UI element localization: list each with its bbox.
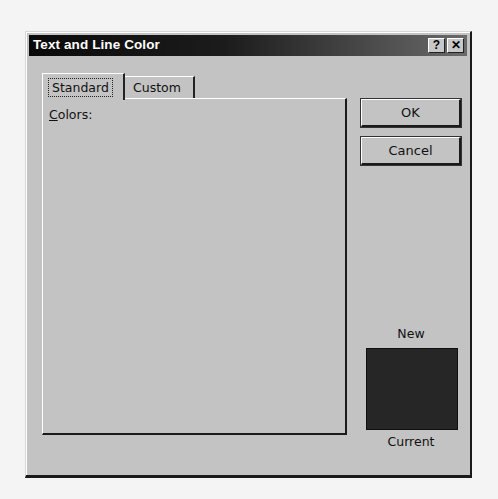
tab-standard-label: Standard [48,78,113,97]
color-preview-swatch [366,348,458,430]
new-color-label: New [361,326,461,341]
close-icon: ✕ [451,38,461,52]
title-bar[interactable]: Text and Line Color ? ✕ [29,35,467,56]
cancel-button[interactable]: Cancel [361,137,461,165]
tab-standard[interactable]: Standard [42,73,125,100]
help-button[interactable]: ? [428,38,445,53]
close-button[interactable]: ✕ [447,38,464,53]
dialog-title: Text and Line Color [33,37,160,52]
current-color-label: Current [361,434,461,449]
tab-custom[interactable]: Custom [125,76,195,98]
colors-label-accelerator: C [49,107,58,122]
ok-button[interactable]: OK [361,99,461,127]
tab-custom-label: Custom [133,80,181,95]
standard-colors-panel: Colors: [42,98,347,435]
text-and-line-color-dialog: Text and Line Color ? ✕ Standard Custom … [25,31,472,478]
colors-label-text: olors: [58,107,93,122]
question-mark-icon: ? [433,38,440,52]
colors-label: Colors: [49,107,92,122]
